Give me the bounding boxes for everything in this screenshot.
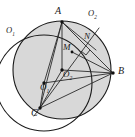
label-center-o1-subscript: 1: [47, 88, 50, 94]
label-center-o2-subscript: 2: [70, 75, 73, 81]
geometry-figure: A B C M N O2 O1 O1 O2: [0, 0, 135, 137]
label-circle-o2: O2: [88, 9, 97, 20]
label-point-n: N: [84, 32, 90, 41]
dot-b: [111, 71, 114, 74]
label-circle-o1: O1: [6, 26, 15, 37]
dot-m: [71, 51, 74, 54]
dot-c: [38, 106, 41, 109]
label-circle-o1-subscript: 1: [12, 31, 15, 37]
label-center-o1: O1: [40, 83, 49, 94]
dot-a: [60, 20, 63, 23]
label-point-a: A: [55, 6, 61, 16]
label-center-o2: O2: [63, 70, 72, 81]
label-circle-o2-subscript: 2: [94, 14, 97, 20]
label-point-b: B: [118, 66, 124, 76]
label-point-m: M: [63, 43, 71, 52]
label-point-c: C: [31, 108, 38, 118]
